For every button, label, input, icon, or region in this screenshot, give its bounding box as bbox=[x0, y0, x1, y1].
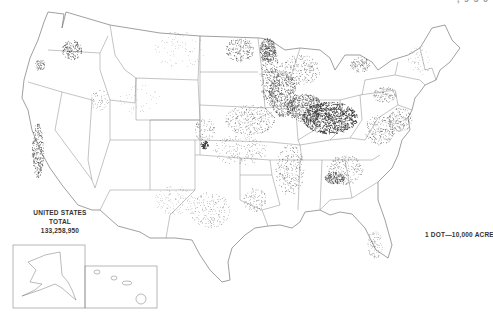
state-borders bbox=[28, 25, 436, 238]
dot-legend: 1 DOT—10,000 ACRES bbox=[425, 231, 493, 238]
us-total-label: UNITED STATES TOTAL 133,258,950 bbox=[26, 208, 94, 235]
total-value: 133,258,950 bbox=[26, 226, 94, 235]
total-label-line2: TOTAL bbox=[26, 217, 94, 226]
total-label-line1: UNITED STATES bbox=[26, 208, 94, 217]
hawaii-inset bbox=[85, 266, 157, 308]
alaska-inset bbox=[13, 245, 85, 308]
map-title-fragment: — — , 9 5 0 bbox=[430, 0, 489, 4]
dot-density-map bbox=[0, 0, 493, 320]
